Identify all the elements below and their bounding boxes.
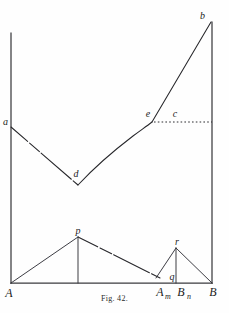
triangle-side-r-to-B <box>176 248 212 283</box>
curve-segment-e-to-b <box>152 22 211 122</box>
triangle-side-A-to-p <box>11 237 78 283</box>
curve-segment-d-to-e <box>78 122 152 185</box>
point-label-a: a <box>3 116 8 127</box>
figure-container: a b c d e p q r A A m B n B Fig. 42. <box>0 0 229 313</box>
point-label-q: q <box>170 271 175 282</box>
figure-caption: Fig. 42. <box>0 294 229 303</box>
curve-segment-a-to-d <box>11 127 78 185</box>
point-label-b: b <box>200 10 205 21</box>
figure-drawing: a b c d e p q r A A m B n B <box>0 0 229 313</box>
point-label-r: r <box>175 236 179 247</box>
triangle-side-p-to-Am <box>78 237 160 278</box>
point-label-p: p <box>75 225 81 236</box>
point-label-c: c <box>173 108 178 119</box>
point-label-d: d <box>74 168 80 179</box>
point-label-e: e <box>146 108 151 119</box>
